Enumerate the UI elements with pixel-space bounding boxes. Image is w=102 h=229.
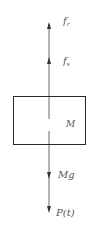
arrow-down-icon <box>47 172 51 179</box>
force-label-f2: fs <box>62 55 70 67</box>
free-body-diagram: fr fs M Mg P(t) <box>0 0 102 229</box>
arrow-down-icon <box>47 206 51 213</box>
arrow-up-icon <box>47 22 51 29</box>
arrow-up-icon <box>47 57 51 64</box>
force-label-weight: Mg <box>57 169 75 180</box>
mass-label: M <box>65 119 76 129</box>
force-label-f1: fr <box>62 15 71 27</box>
force-label-load: P(t) <box>55 207 75 218</box>
